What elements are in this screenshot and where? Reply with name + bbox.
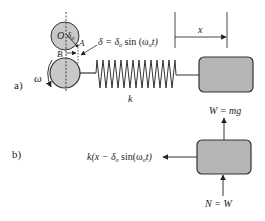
part-a-label: a) <box>14 79 23 92</box>
weight-label: W = mg <box>209 105 241 116</box>
free-body-block <box>197 140 251 174</box>
part-a: a) O δo A B ω δ = δo sin (ωot) k x <box>14 12 253 104</box>
x-label: x <box>197 24 203 35</box>
spring <box>96 60 199 88</box>
center-o-label: O <box>57 30 64 41</box>
spring-force-label: k(x − δo sin(ωot) <box>87 151 152 163</box>
roller-disk <box>50 58 80 88</box>
displacement-equation: δ = δo sin (ωot) <box>98 36 158 48</box>
part-b: b) W = mg N = W k(x − δo sin(ωot) <box>12 105 251 209</box>
omega-label: ω <box>34 72 42 84</box>
eccentric-disk <box>51 22 79 50</box>
spring-k-label: k <box>128 93 133 104</box>
normal-label: N = W <box>204 198 233 209</box>
mass-block <box>199 57 253 92</box>
point-a-label: A <box>78 38 85 48</box>
vibration-diagram: a) O δo A B ω δ = δo sin (ωot) k x b) W … <box>0 0 265 221</box>
point-b-label: B <box>57 49 63 59</box>
part-b-label: b) <box>12 148 22 161</box>
